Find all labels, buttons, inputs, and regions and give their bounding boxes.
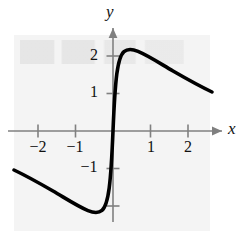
x-tick-label--1: −1: [61, 138, 89, 156]
x-tick-label-1: 1: [142, 138, 160, 156]
figure-graph-of-function: y x −2 −1 1 2 2 1 −1: [0, 0, 245, 231]
x-axis-label: x: [228, 119, 236, 139]
y-axis-label: y: [106, 2, 114, 22]
x-axis: [8, 127, 222, 136]
plot-canvas: [0, 0, 245, 231]
y-tick-label-2: 2: [86, 46, 102, 64]
x-tick-label-2: 2: [179, 138, 197, 156]
y-tick-label-1: 1: [86, 83, 102, 101]
y-tick-label--1: −1: [76, 158, 102, 176]
x-tick-label--2: −2: [24, 138, 52, 156]
